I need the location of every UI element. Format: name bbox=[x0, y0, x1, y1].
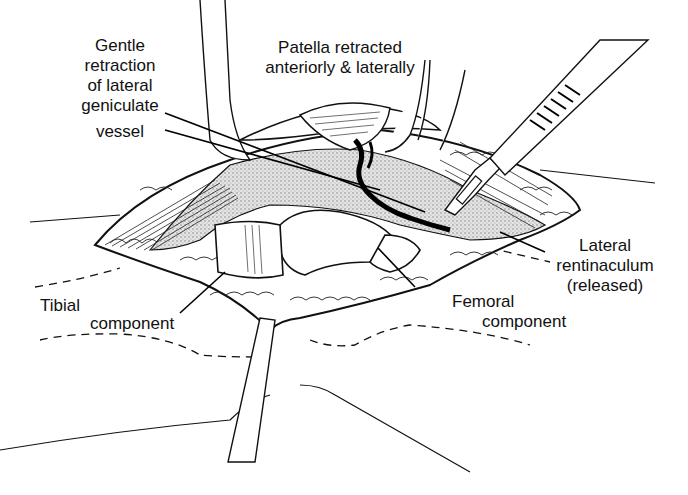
vessel-label-line-4: geniculate bbox=[60, 96, 180, 116]
vessel-label-line-2: retraction bbox=[60, 56, 180, 76]
patella-label: Patella retracted anteriorly & laterally bbox=[245, 38, 435, 78]
femoral-label: Femoral component bbox=[452, 292, 566, 332]
tibial-label-word-2: component bbox=[90, 314, 174, 334]
femoral-label-line-2: component bbox=[452, 312, 566, 332]
patella-label-line-2: anteriorly & laterally bbox=[245, 58, 435, 78]
vessel-label-line-1: Gentle bbox=[60, 36, 180, 56]
vessel-label-line-3: of lateral bbox=[60, 76, 180, 96]
vessel-label: Gentle retraction of lateral geniculate … bbox=[60, 36, 180, 142]
retinaculum-label: Lateral rentinaculum (released) bbox=[545, 236, 665, 296]
patella-label-line-1: Patella retracted bbox=[245, 38, 435, 58]
retinaculum-label-line-2: rentinaculum bbox=[545, 256, 665, 276]
tibial-component bbox=[215, 222, 283, 278]
vessel-label-line-5: vessel bbox=[60, 122, 180, 142]
femoral-label-line-1: Femoral bbox=[452, 292, 566, 312]
retinaculum-label-line-1: Lateral bbox=[545, 236, 665, 256]
tibial-label-word-1: Tibial bbox=[40, 296, 80, 316]
